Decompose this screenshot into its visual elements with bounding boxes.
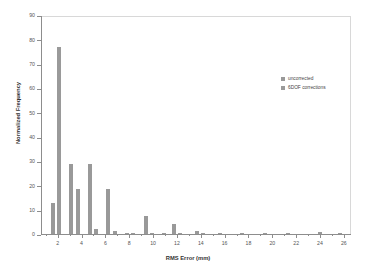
x-axis-minor-tick	[141, 234, 142, 236]
y-axis-tick	[37, 186, 41, 187]
y-axis-tick	[37, 65, 41, 66]
chart-bar	[106, 189, 110, 234]
x-axis-tick-label: 24	[312, 241, 328, 246]
y-axis-tick	[37, 113, 41, 114]
x-axis-title: RMS Error (mm)	[0, 255, 376, 261]
legend-swatch-icon	[281, 86, 285, 90]
y-axis-tick-label: 40	[20, 135, 35, 140]
y-axis-tick-label: 10	[20, 208, 35, 213]
chart-bar	[88, 164, 92, 234]
x-axis-minor-tick	[237, 234, 238, 236]
legend-item-label: uncorrected	[288, 77, 313, 82]
y-axis-tick-label: 90	[20, 13, 35, 18]
y-axis-tick-label: 50	[20, 111, 35, 116]
x-axis-tick	[105, 234, 106, 238]
x-axis-minor-tick	[213, 234, 214, 236]
x-axis-tick-label: 12	[169, 241, 185, 246]
x-axis-tick	[177, 234, 178, 238]
y-axis-tick	[37, 16, 41, 17]
chart-bar	[172, 224, 176, 234]
legend-item-label: 6DOF corrections	[288, 86, 326, 91]
x-axis-tick	[82, 234, 83, 238]
x-axis-tick	[129, 234, 130, 238]
x-axis-tick	[58, 234, 59, 238]
plot-frame	[41, 16, 351, 235]
x-axis-minor-tick	[284, 234, 285, 236]
plot-area	[42, 17, 350, 234]
x-axis-minor-tick	[332, 234, 333, 236]
y-axis-tick	[37, 138, 41, 139]
x-axis-tick-label: 2	[50, 241, 66, 246]
x-axis-line	[41, 234, 351, 235]
x-axis-minor-tick	[308, 234, 309, 236]
x-axis-minor-tick	[46, 234, 47, 236]
x-axis-minor-tick	[117, 234, 118, 236]
chart-bar	[69, 164, 73, 234]
y-axis-tick	[37, 89, 41, 90]
chart-bar	[51, 203, 55, 234]
x-axis-tick-label: 26	[336, 241, 352, 246]
x-axis-minor-tick	[165, 234, 166, 236]
x-axis-tick-label: 20	[264, 241, 280, 246]
x-axis-tick-label: 4	[74, 241, 90, 246]
y-axis-tick-label: 30	[20, 159, 35, 164]
chart-bar	[76, 189, 80, 234]
x-axis-tick	[320, 234, 321, 238]
y-axis-tick-label: 60	[20, 86, 35, 91]
x-axis-tick	[296, 234, 297, 238]
legend-item: 6DOF corrections	[281, 86, 326, 91]
legend-swatch-icon	[281, 77, 285, 81]
y-axis-tick-label: 80	[20, 38, 35, 43]
y-axis-tick	[37, 40, 41, 41]
y-axis-tick	[37, 162, 41, 163]
x-axis-tick-label: 14	[193, 241, 209, 246]
x-axis-tick	[225, 234, 226, 238]
y-axis-tick-label: 70	[20, 62, 35, 67]
x-axis-tick	[201, 234, 202, 238]
x-axis-minor-tick	[93, 234, 94, 236]
chart-figure: 0102030405060708090 24681012141618202224…	[0, 0, 376, 274]
x-axis-tick-label: 8	[121, 241, 137, 246]
y-axis-title: Normalized Frequency	[15, 48, 21, 178]
chart-bar	[144, 216, 148, 234]
y-axis-line	[41, 16, 42, 235]
x-axis-tick	[344, 234, 345, 238]
x-axis-tick	[248, 234, 249, 238]
x-axis-tick-label: 22	[288, 241, 304, 246]
y-axis-tick-label: 20	[20, 184, 35, 189]
x-axis-tick-label: 16	[217, 241, 233, 246]
x-axis-tick-label: 18	[240, 241, 256, 246]
chart-bar	[57, 47, 61, 234]
y-axis-tick	[37, 235, 41, 236]
y-axis-tick-label: 0	[20, 232, 35, 237]
x-axis-minor-tick	[189, 234, 190, 236]
x-axis-minor-tick	[70, 234, 71, 236]
x-axis-tick-label: 10	[145, 241, 161, 246]
x-axis-tick-label: 6	[97, 241, 113, 246]
x-axis-minor-tick	[260, 234, 261, 236]
chart-legend: uncorrected6DOF corrections	[281, 77, 326, 95]
legend-item: uncorrected	[281, 77, 326, 82]
x-axis-tick	[272, 234, 273, 238]
y-axis-tick	[37, 211, 41, 212]
x-axis-tick	[153, 234, 154, 238]
